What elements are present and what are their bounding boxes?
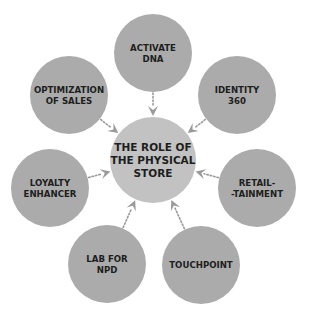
arrowhead-icon [188, 123, 199, 133]
dotted-connector [89, 174, 102, 178]
node-touchpoint: TOUCHPOINT [162, 226, 240, 304]
center-label-line: THE ROLE OF [114, 141, 191, 153]
edge-touchpoint [171, 200, 184, 229]
node-lab-for-npd: LAB FORNPD [68, 225, 146, 303]
node-optimization-of-sales: OPTIMIZATIONOF SALES [30, 56, 108, 134]
identity-360-label-line: IDENTITY [215, 85, 260, 95]
lab-for-npd-label-line: NPD [97, 265, 118, 275]
arrowhead-icon [148, 106, 158, 116]
edge-loyalty-enhancer [89, 169, 111, 179]
edge-identity-360 [188, 119, 206, 133]
retail-tainment-label-line: RETAIL- [239, 178, 276, 188]
activate-dna-label-line: DNA [143, 54, 164, 64]
lab-for-npd-label-line: LAB FOR [86, 254, 128, 264]
loyalty-enhancer-label-line: ENHANCER [24, 189, 77, 199]
edge-activate-dna [148, 93, 158, 116]
edge-retail-tainment [196, 169, 219, 179]
hub-spoke-diagram: THE ROLE OFTHE PHYSICALSTOREACTIVATEDNAI… [0, 0, 310, 316]
optimization-of-sales-label-line: OPTIMIZATION [34, 85, 104, 95]
dotted-connector [101, 119, 111, 127]
identity-360-label-line: 360 [228, 96, 246, 106]
center-label-line: THE PHYSICAL [111, 154, 196, 166]
activate-dna-label-line: ACTIVATE [130, 43, 176, 53]
node-loyalty-enhancer: LOYALTYENHANCER [11, 149, 89, 227]
touchpoint-label-line: TOUCHPOINT [169, 260, 233, 270]
edge-lab-for-npd [123, 200, 136, 227]
node-activate-dna: ACTIVATEDNA [114, 14, 192, 92]
loyalty-enhancer-label-line: LOYALTY [30, 178, 71, 188]
dotted-connector [123, 208, 131, 227]
dotted-connector [195, 119, 205, 127]
node-retail-tainment: RETAIL--TAINMENT [218, 149, 296, 227]
retail-tainment-label-line: -TAINMENT [231, 189, 283, 199]
center-node: THE ROLE OFTHE PHYSICALSTORE [110, 117, 196, 203]
dotted-connector [204, 174, 218, 178]
nodes-layer: THE ROLE OFTHE PHYSICALSTOREACTIVATEDNAI… [11, 14, 296, 304]
arrowhead-icon [107, 123, 118, 133]
arrowhead-icon [100, 169, 111, 179]
center-label-line: STORE [134, 167, 173, 179]
node-identity-360: IDENTITY360 [198, 56, 276, 134]
edge-optimization-of-sales [101, 119, 119, 133]
dotted-connector [175, 208, 184, 228]
optimization-of-sales-label-line: OF SALES [46, 96, 93, 106]
